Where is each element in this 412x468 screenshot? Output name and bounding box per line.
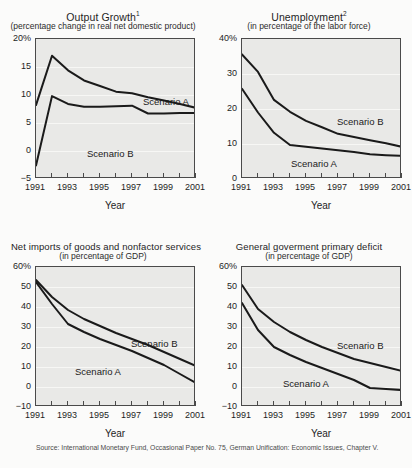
x-tick-mark [257, 401, 258, 406]
series-label-scenario-a: Scenario A [143, 96, 189, 107]
y-tick-label: 60% [205, 262, 237, 271]
chart-panel-net-imports: Net imports of goods and nonfactor servi… [0, 234, 206, 466]
x-tick-mark [179, 173, 180, 178]
x-tick-label: 1999 [146, 411, 180, 420]
y-tick-label: 20% [0, 34, 31, 43]
x-tick-mark [321, 173, 322, 178]
source-note: Source: International Monetary Fund, Occ… [36, 443, 396, 452]
x-tick-mark [385, 173, 386, 178]
chart-subtitle-unemployment: (in percentage of the labor force) [206, 21, 412, 32]
x-tick-label: 1997 [320, 411, 354, 420]
footnote-marker [36, 462, 38, 468]
x-tick-label: 1995 [82, 183, 116, 192]
x-tick-label: 1993 [50, 411, 84, 420]
y-tick-label: 0 [0, 382, 31, 391]
chart-panel-unemployment: Unemployment2 (in percentage of the labo… [206, 0, 412, 232]
x-tick-mark [289, 401, 290, 406]
series-lines-net-imports [36, 267, 195, 406]
y-tick-label: 20 [205, 104, 237, 113]
series-label-scenario-b: Scenario B [337, 116, 383, 127]
x-tick-label: 1997 [114, 411, 148, 420]
y-tick-label: 40 [205, 302, 237, 311]
x-tick-label: 1997 [320, 183, 354, 192]
y-tick-label: 50 [0, 282, 31, 291]
x-tick-mark [369, 401, 370, 406]
x-tick-label: 1993 [256, 411, 290, 420]
x-tick-mark [289, 173, 290, 178]
plot-area-net-imports [35, 266, 195, 406]
x-tick-label: 2001 [384, 183, 412, 192]
x-tick-label: 1997 [114, 183, 148, 192]
series-line-scenario-b [242, 54, 401, 146]
x-tick-label: 1991 [224, 411, 258, 420]
x-tick-mark [195, 173, 196, 178]
x-tick-mark [179, 401, 180, 406]
y-tick-label: 20 [205, 342, 237, 351]
y-tick-label: 10 [0, 90, 31, 99]
x-tick-mark [401, 401, 402, 406]
x-tick-mark [369, 173, 370, 178]
x-tick-mark [163, 401, 164, 406]
y-tick-label: 10 [205, 139, 237, 148]
x-tick-label: 1991 [18, 183, 52, 192]
x-tick-mark [163, 173, 164, 178]
x-axis-label: Year [241, 428, 401, 439]
x-tick-mark [195, 401, 196, 406]
x-tick-mark [35, 173, 36, 178]
x-tick-mark [131, 401, 132, 406]
x-tick-mark [273, 401, 274, 406]
y-tick-label: 15 [0, 62, 31, 71]
figure-page: Output Growth1 (percentage change in rea… [0, 0, 412, 468]
x-tick-mark [257, 173, 258, 178]
x-tick-mark [241, 401, 242, 406]
series-label-scenario-b: Scenario B [131, 338, 177, 349]
y-tick-label: 20 [0, 342, 31, 351]
series-label-scenario-b: Scenario B [337, 340, 383, 351]
x-tick-mark [353, 173, 354, 178]
chart-panel-output-growth: Output Growth1 (percentage change in rea… [0, 0, 206, 232]
x-tick-mark [67, 173, 68, 178]
title-superscript: 1 [136, 10, 140, 17]
series-label-scenario-a: Scenario A [291, 158, 337, 169]
series-label-scenario-a: Scenario A [283, 378, 329, 389]
chart-panel-primary-deficit: General goverment primary deficit (in pe… [206, 234, 412, 466]
x-tick-mark [131, 173, 132, 178]
x-tick-label: 1999 [352, 183, 386, 192]
x-tick-mark [305, 401, 306, 406]
y-tick-label: 50 [205, 282, 237, 291]
y-tick-label: 0 [0, 146, 31, 155]
x-tick-mark [147, 173, 148, 178]
x-axis-label: Year [35, 200, 195, 211]
x-tick-mark [51, 173, 52, 178]
x-tick-mark [51, 401, 52, 406]
x-tick-label: 1993 [256, 183, 290, 192]
y-tick-label: 40 [0, 302, 31, 311]
x-tick-mark [385, 401, 386, 406]
x-tick-label: 1999 [352, 411, 386, 420]
series-line-scenario-b [36, 280, 195, 366]
y-tick-label: 10 [205, 362, 237, 371]
x-tick-mark [321, 401, 322, 406]
series-label-scenario-a: Scenario A [75, 366, 121, 377]
x-tick-label: 2001 [384, 411, 412, 420]
x-tick-label: 1999 [146, 183, 180, 192]
y-tick-label: 40% [205, 34, 237, 43]
y-tick-label: 30 [0, 322, 31, 331]
x-axis-label: Year [241, 200, 401, 211]
x-tick-label: 1995 [82, 411, 116, 420]
title-superscript: 2 [343, 10, 347, 17]
series-label-scenario-b: Scenario B [87, 148, 133, 159]
y-tick-label: 60% [0, 262, 31, 271]
y-tick-label: 30 [205, 69, 237, 78]
x-tick-mark [115, 401, 116, 406]
x-tick-mark [115, 173, 116, 178]
x-tick-label: 1995 [288, 411, 322, 420]
y-tick-label: 10 [0, 362, 31, 371]
x-tick-label: 1991 [224, 183, 258, 192]
x-tick-mark [99, 401, 100, 406]
x-tick-mark [83, 401, 84, 406]
y-tick-label: 30 [205, 322, 237, 331]
x-tick-mark [35, 401, 36, 406]
series-line-scenario-b [242, 285, 401, 371]
x-tick-mark [401, 173, 402, 178]
